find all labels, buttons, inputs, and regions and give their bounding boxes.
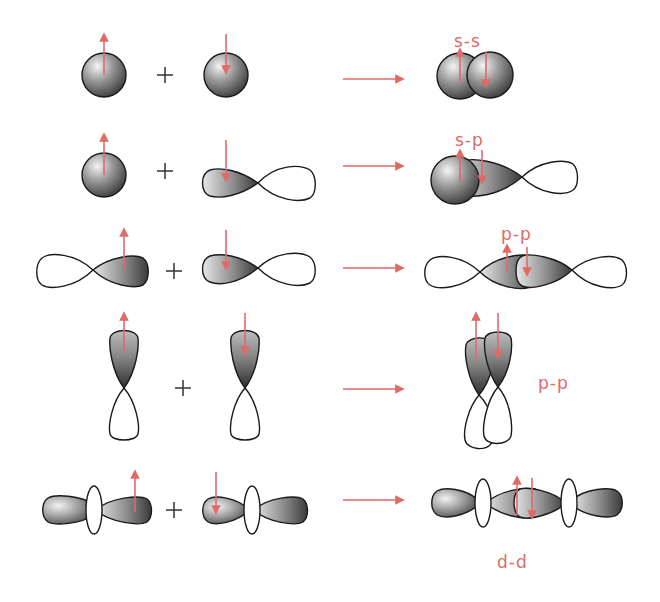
p-p-side-overlap-result <box>465 313 512 449</box>
plus-icon <box>166 263 182 279</box>
s-orbital-spin-up <box>82 37 126 97</box>
label-p-p-side: p-p <box>538 375 569 392</box>
row-p-p-axial <box>37 230 627 288</box>
label-d-d: d-d <box>497 554 528 571</box>
orbital-overlap-diagram <box>0 0 660 602</box>
label-s-s: s-s <box>454 33 481 50</box>
row-d-d <box>43 472 623 534</box>
p-orbital-spin-down <box>203 140 316 200</box>
row-p-p-side <box>110 313 512 449</box>
s-s-overlap-result <box>437 52 513 99</box>
row-s-p <box>82 137 578 204</box>
plus-icon <box>166 502 182 518</box>
p-orbital-spin-down <box>203 230 316 285</box>
plus-icon <box>157 163 173 179</box>
d-orbital-spin-down <box>203 472 308 534</box>
plus-icon <box>175 380 191 396</box>
s-p-overlap-result <box>431 150 578 204</box>
p-orbital-vertical-spin-up <box>110 316 139 440</box>
s-orbital-spin-up <box>82 137 126 197</box>
label-s-p: s-p <box>455 132 484 149</box>
figure-caption-cutoff <box>0 592 660 602</box>
label-p-p-axial: p-p <box>501 226 532 243</box>
d-d-overlap-result <box>432 478 623 527</box>
s-orbital-spin-down <box>204 34 248 97</box>
d-orbital-spin-up <box>43 474 152 534</box>
row-s-s <box>82 34 513 99</box>
p-orbital-spin-up <box>37 232 149 287</box>
p-p-overlap-result <box>425 247 627 288</box>
plus-icon <box>157 67 173 83</box>
p-orbital-vertical-spin-down <box>231 313 260 440</box>
